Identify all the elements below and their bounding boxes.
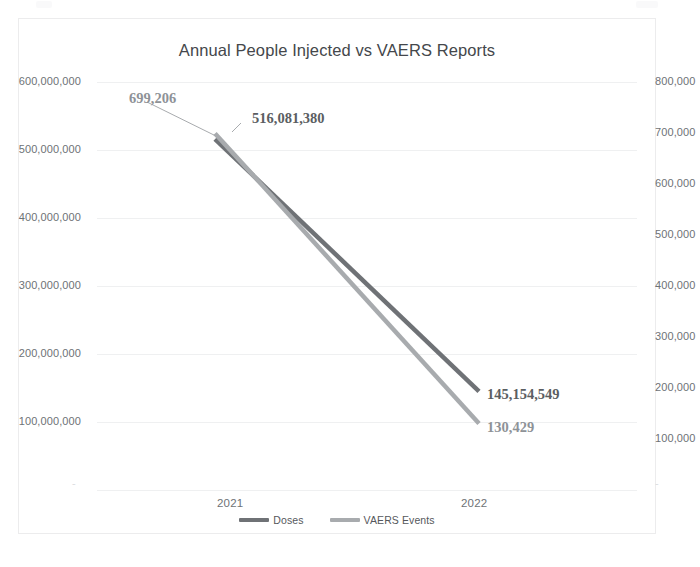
x-axis-label-2021: 2021	[217, 497, 243, 509]
right-axis-tick-400k: 400,000	[645, 279, 695, 291]
left-axis-tick-zero: -	[72, 477, 76, 489]
right-axis-tick-zero: -	[655, 477, 659, 489]
legend-label-doses: Doses	[273, 514, 303, 526]
chart-title: Annual People Injected vs VAERS Reports	[19, 41, 655, 60]
gridline-300m	[97, 286, 637, 287]
scan-artifact-left	[36, 1, 52, 8]
data-label-doses-2022: 145,154,549	[487, 386, 560, 403]
right-value-axis: 800,000 700,000 600,000 500,000 400,000 …	[645, 82, 700, 491]
chart-legend: Doses VAERS Events	[19, 514, 655, 526]
right-axis-tick-100k: 100,000	[645, 432, 695, 444]
x-axis-label-2022: 2022	[461, 497, 487, 509]
left-axis-tick-300m: 300,000,000	[11, 279, 89, 291]
right-axis-tick-800k: 800,000	[645, 75, 695, 87]
right-axis-tick-200k: 200,000	[645, 381, 695, 393]
legend-swatch-doses-icon	[239, 518, 269, 522]
legend-item-doses[interactable]: Doses	[239, 514, 303, 526]
gridline-100m	[97, 422, 637, 423]
gridline-500m	[97, 150, 637, 151]
left-axis-tick-600m: 600,000,000	[11, 75, 89, 87]
data-label-doses-2021: 516,081,380	[252, 110, 325, 127]
legend-item-vaers-events[interactable]: VAERS Events	[330, 514, 435, 526]
right-axis-tick-500k: 500,000	[645, 228, 695, 240]
legend-label-vaers-events: VAERS Events	[364, 514, 435, 526]
left-axis-tick-500m: 500,000,000	[11, 143, 89, 155]
gridline-600m	[97, 82, 637, 83]
left-value-axis: 600,000,000 500,000,000 400,000,000 300,…	[19, 82, 89, 491]
gridline-400m	[97, 218, 637, 219]
right-axis-tick-300k: 300,000	[645, 330, 695, 342]
left-axis-tick-400m: 400,000,000	[11, 211, 89, 223]
legend-swatch-vaers-events-icon	[330, 518, 360, 522]
plot-area	[97, 82, 637, 491]
right-axis-tick-600k: 600,000	[645, 177, 695, 189]
left-axis-tick-100m: 100,000,000	[11, 415, 89, 427]
left-axis-tick-200m: 200,000,000	[11, 347, 89, 359]
data-label-vaers-2022: 130,429	[487, 419, 534, 436]
gridline-zero	[97, 490, 637, 491]
data-label-vaers-2021: 699,206	[129, 90, 176, 107]
gridline-200m	[97, 354, 637, 355]
right-axis-tick-700k: 700,000	[645, 126, 695, 138]
chart-card: Annual People Injected vs VAERS Reports …	[18, 18, 656, 534]
scan-artifact-right	[636, 1, 658, 8]
